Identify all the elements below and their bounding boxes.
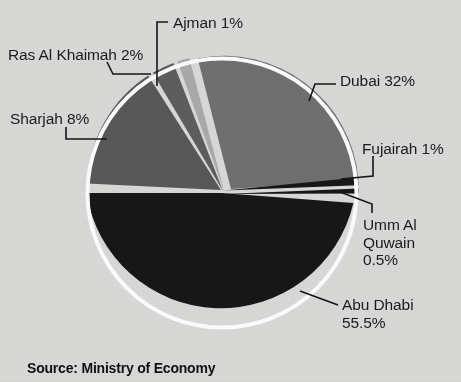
leader-line-ras-al-khaimah [107,62,151,74]
pie-label-abu-dhabi: Abu Dhabi 55.5% [342,296,457,331]
pie-label-dubai: Dubai 32% [340,72,415,89]
pie-slice-sharjah[interactable] [87,76,221,190]
pie-label-fujairah: Fujairah 1% [362,140,444,157]
pie-label-sharjah: Sharjah 8% [10,110,89,127]
pie-label-abu-dhabi-line2: 55.5% [342,314,457,332]
pie-label-ras-al-khaimah: Ras Al Khaimah 2% [8,46,143,63]
pie-label-umm-al-quwain-line1: Umm Al [363,216,458,234]
pie-label-umm-al-quwain-line2: Quwain [363,234,458,252]
pie-label-abu-dhabi-line1: Abu Dhabi [342,296,457,314]
pie-label-umm-al-quwain: Umm Al Quwain 0.5% [363,216,458,269]
pie-label-umm-al-quwain-line3: 0.5% [363,251,458,269]
pie-label-ajman: Ajman 1% [173,14,243,31]
source-note: Source: Ministry of Economy [27,360,215,376]
